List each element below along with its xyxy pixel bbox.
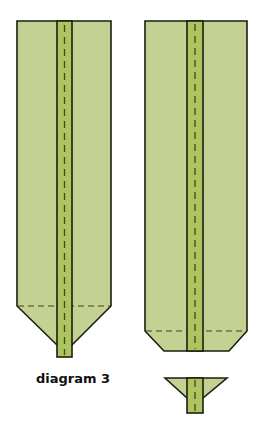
chamfered-strip [145, 21, 247, 351]
small-funnel-piece [165, 378, 227, 413]
pointed-strip [17, 21, 111, 357]
diagram-caption: diagram 3 [36, 371, 110, 386]
